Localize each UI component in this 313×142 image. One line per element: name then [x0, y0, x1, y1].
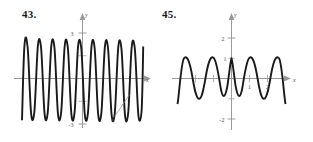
y-tick-label-neg2-45: -2 [220, 117, 225, 123]
y-axis-label-45: y [233, 12, 237, 18]
figure-45: 45. [156, 0, 313, 142]
y-axis-label-43: y [84, 12, 88, 18]
plot-area-43: x y 3 -3 π [0, 0, 157, 142]
x-tick-label-1-45: 1 [248, 84, 251, 90]
y-tick-label-neg3-43: -3 [69, 122, 74, 128]
x-axis-label-43: x [145, 77, 149, 83]
x-tick-label-2-45: 2 [266, 84, 269, 90]
figure-43: 43. [0, 0, 157, 142]
chart-svg-43: x y 3 -3 π [0, 0, 157, 142]
plot-area-45: x y 2 1 -2 1 2 [156, 0, 313, 142]
y-tick-label-1-45: 1 [224, 56, 227, 62]
chart-svg-45: x y 2 1 -2 1 2 [156, 0, 313, 142]
y-tick-label-2-45: 2 [222, 36, 225, 42]
x-axis-label-45: x [292, 77, 296, 83]
y-tick-label-3-43: 3 [71, 31, 74, 37]
